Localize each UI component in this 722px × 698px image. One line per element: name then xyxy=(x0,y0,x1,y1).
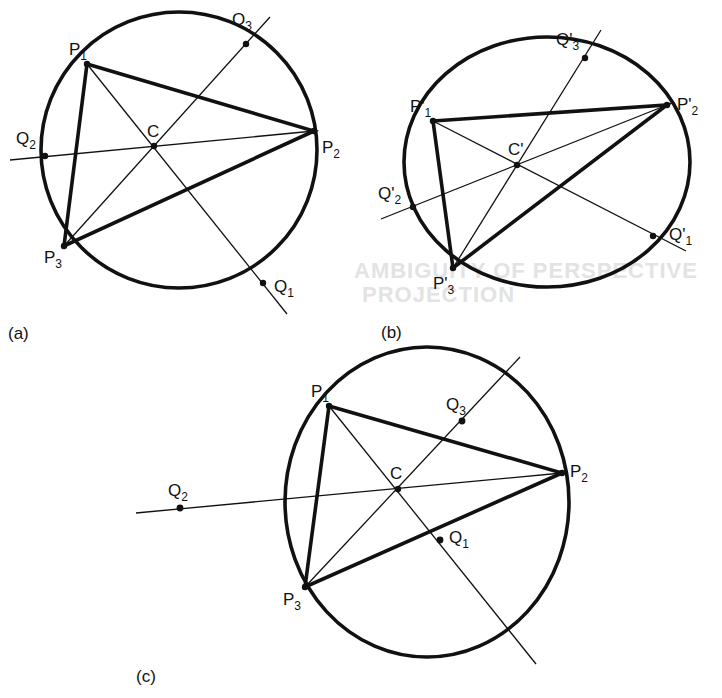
point-p3-a xyxy=(61,243,67,249)
point-q3-b xyxy=(582,55,588,61)
label-q3-b: Q'3 xyxy=(556,30,579,53)
line-p1-q1-a xyxy=(87,64,287,314)
point-p2-b xyxy=(664,102,670,108)
point-q1-c xyxy=(437,537,444,544)
panel-a: P1 P2 P3 Q1 Q2 Q3 C (a) xyxy=(8,10,340,343)
line-p2-q2-c xyxy=(136,473,562,513)
point-q3-c xyxy=(459,418,466,425)
caption-c: (c) xyxy=(136,667,156,686)
point-c-c xyxy=(395,486,401,492)
label-q2-a: Q2 xyxy=(16,129,36,152)
point-q2-a xyxy=(42,153,48,159)
panel-b: P'1 P'2 P'3 Q'1 Q'2 Q'3 C' (b) xyxy=(378,30,699,342)
line-p3-q3-b xyxy=(453,30,601,268)
label-p3-a: P3 xyxy=(44,248,62,271)
label-c-a: C xyxy=(147,122,159,141)
point-p2-a xyxy=(311,128,317,134)
point-q2-b xyxy=(410,204,416,210)
point-q2-c xyxy=(177,505,184,512)
point-q3-a xyxy=(243,41,249,47)
label-q3-c: Q3 xyxy=(446,395,466,418)
perspective-projection-figure: P1 P2 P3 Q1 Q2 Q3 C (a) P'1 P'2 P'3 Q'1 … xyxy=(0,0,722,698)
point-p3-c xyxy=(302,584,308,590)
label-c-c: C xyxy=(390,464,402,483)
label-q2-b: Q'2 xyxy=(378,184,401,207)
line-p3-q3-c xyxy=(305,357,520,587)
label-q1-c: Q1 xyxy=(449,528,469,551)
line-p3-q3-a xyxy=(64,17,270,246)
label-q1-a: Q1 xyxy=(274,277,294,300)
triangle-a xyxy=(64,64,314,246)
point-c-a xyxy=(151,143,157,149)
label-p3-b: P'3 xyxy=(433,274,455,297)
point-p3-b xyxy=(450,265,456,271)
label-q2-c: Q2 xyxy=(168,481,188,504)
label-p1-a: P1 xyxy=(69,40,87,63)
label-c-b: C' xyxy=(508,140,524,159)
triangle-c xyxy=(305,406,562,587)
point-q1-b xyxy=(650,233,656,239)
ellipse-b xyxy=(404,37,690,287)
caption-a: (a) xyxy=(8,324,29,343)
line-p2-q2-b xyxy=(381,105,667,219)
caption-b: (b) xyxy=(381,323,402,342)
label-p2-a: P2 xyxy=(322,138,340,161)
point-p2-c xyxy=(559,470,565,476)
label-p3-c: P3 xyxy=(283,590,301,613)
line-p1-q1-b xyxy=(433,121,686,251)
panel-c: P1 P2 P3 Q1 Q2 Q3 C (c) xyxy=(136,347,588,686)
point-c-b xyxy=(514,162,520,168)
label-p2-c: P2 xyxy=(570,462,588,485)
label-q3-a: Q3 xyxy=(232,10,252,33)
point-q1-a xyxy=(260,280,266,286)
line-p1-q1-c xyxy=(329,406,536,664)
line-p2-q2-a xyxy=(10,131,314,160)
